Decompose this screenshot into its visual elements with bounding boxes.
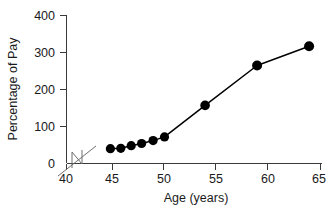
- y-tick-label-100: 100: [34, 120, 55, 134]
- data-point: [116, 144, 125, 153]
- x-tick-label-45: 45: [105, 172, 119, 186]
- data-point: [127, 141, 136, 150]
- line-chart: 400 300 200 100 0 Percentage of Pay 40 4…: [0, 0, 332, 213]
- x-tick-label-50: 50: [157, 172, 171, 186]
- y-tick-label-300: 300: [34, 46, 55, 60]
- series-markers: [106, 41, 314, 153]
- x-axis-tick-labels: 40 45 50 55 60 65: [59, 172, 326, 186]
- y-tick-label-200: 200: [34, 83, 55, 97]
- data-point: [149, 136, 158, 145]
- x-tick-label-65: 65: [312, 172, 326, 186]
- data-point: [252, 61, 262, 71]
- y-axis-title: Percentage of Pay: [6, 37, 20, 141]
- x-tick-label-55: 55: [209, 172, 223, 186]
- y-axis-tick-labels: 400 300 200 100 0: [34, 9, 55, 171]
- y-tick-label-0: 0: [48, 157, 55, 171]
- y-tick-label-400: 400: [34, 9, 55, 23]
- data-point: [160, 132, 169, 141]
- data-point: [200, 101, 210, 111]
- x-axis-break-icon: [58, 146, 96, 176]
- series-line-percentage-of-pay: [110, 46, 309, 149]
- x-axis-title: Age (years): [164, 191, 229, 205]
- data-point: [106, 144, 115, 153]
- data-point: [304, 41, 314, 51]
- y-axis-ticks: [60, 16, 67, 127]
- x-axis-ticks: [67, 164, 321, 171]
- data-point: [137, 139, 146, 148]
- chart-container: 400 300 200 100 0 Percentage of Pay 40 4…: [0, 0, 332, 213]
- x-tick-label-60: 60: [261, 172, 275, 186]
